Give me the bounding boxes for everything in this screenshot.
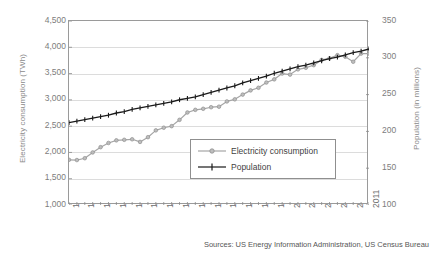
- data-point: [257, 86, 261, 90]
- y-axis-left-tick-label: 2,000: [45, 147, 66, 156]
- data-point: [217, 105, 221, 109]
- y-axis-left-tick-label: 1,000: [45, 200, 66, 209]
- y-axis-left-tick-label: 4,500: [45, 16, 66, 25]
- data-point: [162, 126, 166, 130]
- data-point: [75, 158, 79, 162]
- y-axis-right-tick-label: 100: [382, 200, 396, 209]
- y-axis-left-tick-label: 2,500: [45, 121, 66, 130]
- y-axis-right-tick-label: 250: [382, 89, 396, 98]
- data-point: [130, 137, 134, 141]
- legend-label-population: Population: [231, 162, 271, 172]
- data-point: [69, 158, 71, 162]
- legend-item-electricity-consumption: Electricity consumption: [197, 144, 318, 158]
- series-population: [69, 47, 369, 125]
- y-axis-right-title: Population (in millions): [412, 24, 421, 194]
- data-point: [99, 145, 103, 149]
- data-point: [107, 141, 111, 145]
- legend-item-population: Population: [197, 160, 271, 174]
- data-point: [225, 100, 229, 104]
- chart-container: Electricity consumption (TWh) Population…: [0, 0, 437, 262]
- y-axis-left-tick-label: 1,500: [45, 173, 66, 182]
- y-axis-right-tick-label: 150: [382, 163, 396, 172]
- y-axis-left-tick-label: 3,000: [45, 94, 66, 103]
- y-axis-left-title: Electricity consumption (TWh): [18, 24, 27, 194]
- data-point: [170, 124, 174, 128]
- data-point: [83, 156, 87, 160]
- legend-label-electricity-consumption: Electricity consumption: [231, 146, 318, 156]
- data-point: [233, 98, 237, 102]
- data-point: [367, 52, 369, 56]
- y-axis-right-tick-label: 350: [382, 16, 396, 25]
- data-point: [272, 78, 276, 82]
- data-point: [154, 129, 158, 133]
- data-point: [178, 118, 182, 122]
- data-point: [122, 138, 126, 142]
- y-axis-right-tick-label: 300: [382, 52, 396, 61]
- y-axis-left-tick-label: 3,500: [45, 68, 66, 77]
- data-point: [146, 135, 150, 139]
- series-line: [69, 49, 369, 123]
- data-point: [91, 151, 95, 155]
- data-point: [138, 140, 142, 144]
- data-point: [265, 81, 269, 85]
- data-point: [288, 73, 292, 77]
- chart-legend: Electricity consumption Population: [190, 139, 336, 179]
- legend-key-population: [197, 161, 227, 173]
- data-point: [201, 107, 205, 111]
- source-note: Sources: US Energy Information Administr…: [0, 240, 429, 249]
- y-axis-left-tick-label: 4,000: [45, 42, 66, 51]
- legend-key-electricity-consumption: [197, 145, 227, 157]
- y-axis-right-tick-label: 200: [382, 126, 396, 135]
- data-point: [249, 89, 253, 93]
- data-point: [115, 139, 119, 143]
- data-point: [209, 105, 213, 109]
- data-point: [351, 60, 355, 64]
- data-point: [186, 111, 190, 115]
- x-axis-tick-label: 2011: [372, 190, 381, 208]
- data-point: [241, 93, 245, 97]
- data-point: [194, 108, 198, 112]
